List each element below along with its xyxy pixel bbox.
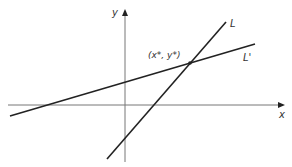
y-axis-label: y xyxy=(111,7,119,18)
line-l-label: L xyxy=(230,18,236,29)
diagram-canvas: y x L L' (x*, y*) xyxy=(0,0,292,167)
x-axis-label: x xyxy=(278,109,285,120)
intersection-label: (x*, y*) xyxy=(148,50,180,60)
y-axis-arrow-icon xyxy=(122,9,128,16)
line-l-prime-label: L' xyxy=(243,52,251,63)
x-axis-arrow-icon xyxy=(278,102,285,108)
intersection-point xyxy=(188,61,192,65)
